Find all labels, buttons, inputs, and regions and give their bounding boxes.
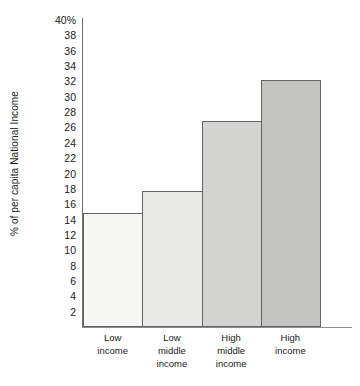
y-tick-label: 20: [64, 169, 76, 179]
x-tick-label-line: income: [261, 344, 320, 357]
bar: [261, 80, 321, 327]
y-axis-title-text: % of per capita National Income: [9, 91, 20, 236]
x-tick-label-line: income: [83, 344, 142, 357]
x-tick-label-line: Low: [142, 331, 201, 344]
y-tick-label: 38: [64, 30, 76, 40]
y-tick-label: 12: [64, 230, 76, 240]
y-tick-label: 8: [70, 261, 76, 271]
y-tick-label: 34: [64, 61, 76, 71]
x-tick-label: Highincome: [261, 331, 320, 357]
x-tick-label-line: income: [142, 357, 201, 370]
y-tick-label: 14: [64, 215, 76, 225]
x-tick-label-line: Low: [83, 331, 142, 344]
y-tick-label: 36: [64, 46, 76, 56]
x-tick-label: Highmiddleincome: [202, 331, 261, 370]
y-tick-label: 30: [64, 92, 76, 102]
y-axis-title: % of per capita National Income: [0, 0, 28, 327]
x-tick-label-line: income: [202, 357, 261, 370]
x-tick-label-line: middle: [142, 344, 201, 357]
y-tick-label: 24: [64, 138, 76, 148]
x-tick-label-line: High: [202, 331, 261, 344]
bar-chart: % of per capita National Income 40%38363…: [0, 0, 360, 386]
y-tick-label: 32: [64, 76, 76, 86]
x-tick-label-line: middle: [202, 344, 261, 357]
bar: [142, 191, 202, 327]
y-tick-label: 10: [64, 245, 76, 255]
x-tick-label-line: High: [261, 331, 320, 344]
x-axis-line: [82, 327, 352, 328]
x-axis-tick-labels: LowincomeLowmiddleincomeHighmiddleincome…: [83, 331, 320, 386]
y-tick-label: 16: [64, 199, 76, 209]
y-tick-label: 26: [64, 122, 76, 132]
y-tick-label: 6: [70, 276, 76, 286]
y-tick-label: 22: [64, 153, 76, 163]
y-tick-label: 2: [70, 307, 76, 317]
bar: [83, 213, 143, 327]
y-tick-label: 28: [64, 107, 76, 117]
y-tick-label: 40%: [55, 15, 76, 25]
y-tick-label: 18: [64, 184, 76, 194]
y-tick-label: 4: [70, 291, 76, 301]
y-axis-tick-labels: 40%3836343230282624222018161412108642: [28, 0, 80, 386]
bar: [202, 121, 262, 327]
x-tick-label: Lowmiddleincome: [142, 331, 201, 370]
plot-area: [83, 20, 320, 327]
x-tick-label: Lowincome: [83, 331, 142, 357]
